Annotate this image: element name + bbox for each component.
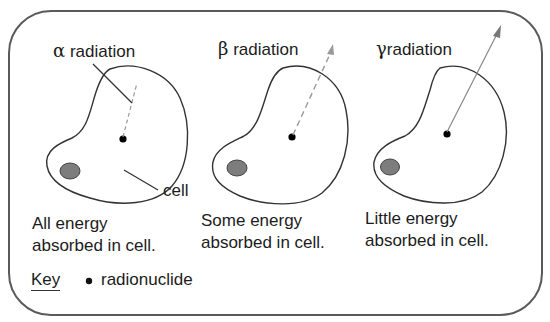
gamma-symbol: γ: [376, 38, 387, 59]
cell-label-leader: [124, 170, 158, 190]
cell-label: cell: [163, 181, 189, 201]
beta-label: β radiation: [218, 39, 298, 60]
beta-symbol: β: [218, 38, 228, 59]
gamma-arrowhead: [493, 25, 501, 38]
cell-outline: [213, 66, 348, 204]
radionuclide-dot: [288, 133, 295, 140]
key-title-text: Key: [31, 270, 60, 291]
alpha-label-text: radiation: [70, 42, 135, 61]
nucleus: [381, 159, 400, 175]
alpha-symbol: α: [53, 40, 65, 61]
alpha-caption-line1: All energy: [32, 213, 156, 235]
gamma-caption: Little energy absorbed in cell.: [365, 208, 489, 252]
nucleus: [60, 163, 80, 179]
beta-label-text: radiation: [233, 40, 298, 59]
gamma-caption-line1: Little energy: [365, 208, 489, 230]
gamma-label-text: radiation: [387, 40, 452, 59]
beta-caption-line2: absorbed in cell.: [201, 232, 325, 254]
alpha-label: α radiation: [53, 41, 135, 62]
alpha-caption: All energy absorbed in cell.: [32, 213, 156, 257]
beta-caption-line1: Some energy: [201, 210, 325, 232]
key-title: Key: [31, 270, 60, 290]
cell-outline: [374, 66, 507, 203]
key-item: radionuclide: [101, 270, 193, 290]
key-bullet-icon: [86, 278, 92, 284]
panel-beta: [213, 44, 348, 204]
beta-arrowhead: [327, 44, 334, 55]
alpha-caption-line2: absorbed in cell.: [32, 235, 156, 257]
alpha-ray-dashed: [123, 83, 137, 137]
beta-caption: Some energy absorbed in cell.: [201, 210, 325, 254]
gamma-label: γradiation: [376, 39, 452, 60]
nucleus: [227, 160, 247, 176]
gamma-caption-line2: absorbed in cell.: [365, 230, 489, 252]
